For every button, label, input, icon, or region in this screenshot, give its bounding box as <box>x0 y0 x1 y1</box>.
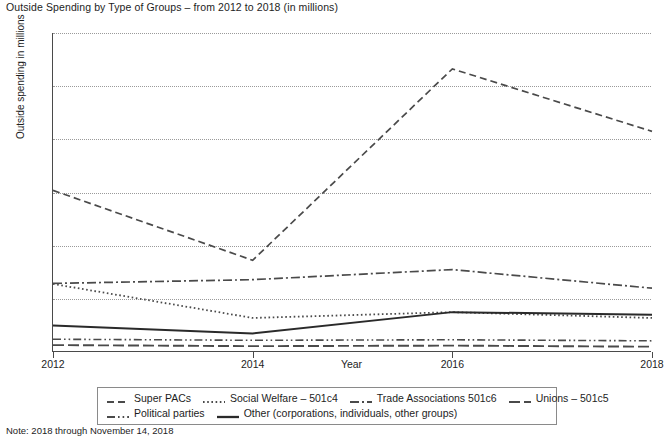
y-axis-title: Outside spending in millions <box>15 0 26 139</box>
legend-label: Social Welfare – 501c4 <box>230 393 338 404</box>
chart-legend: Super PACsSocial Welfare – 501c4Trade As… <box>97 387 557 425</box>
x-axis-title: Year <box>52 358 651 370</box>
chart-title: Outside Spending by Type of Groups – fro… <box>6 1 338 13</box>
legend-entry[interactable]: Other (corporations, individuals, other … <box>217 408 458 419</box>
legend-entry[interactable]: Social Welfare – 501c4 <box>203 393 338 404</box>
legend-label: Unions – 501c5 <box>536 393 609 404</box>
legend-label: Other (corporations, individuals, other … <box>244 408 458 419</box>
legend-swatch-icon <box>107 408 129 418</box>
legend-swatch-icon <box>203 393 225 403</box>
series-line <box>53 69 652 260</box>
series-line <box>53 339 652 341</box>
legend-entry[interactable]: Unions – 501c5 <box>509 393 609 404</box>
legend-entry[interactable]: Trade Associations 501c6 <box>350 393 497 404</box>
legend-swatch-icon <box>350 393 372 403</box>
series-line <box>53 270 652 289</box>
plot-area: Outside spending in millions $0$200$400$… <box>52 33 651 352</box>
legend-swatch-icon <box>217 408 239 418</box>
legend-label: Trade Associations 501c6 <box>377 393 497 404</box>
legend-row: Super PACsSocial Welfare – 501c4Trade As… <box>107 393 547 404</box>
legend-entry[interactable]: Political parties <box>107 408 205 419</box>
legend-swatch-icon <box>107 393 129 403</box>
legend-label: Political parties <box>134 408 205 419</box>
series-line <box>53 345 652 347</box>
chart-note: Note: 2018 through November 14, 2018 <box>6 425 173 436</box>
legend-label: Super PACs <box>134 393 191 404</box>
legend-row: Political partiesOther (corporations, in… <box>107 408 547 419</box>
legend-entry[interactable]: Super PACs <box>107 393 191 404</box>
series-lines <box>53 33 652 352</box>
legend-swatch-icon <box>509 393 531 403</box>
